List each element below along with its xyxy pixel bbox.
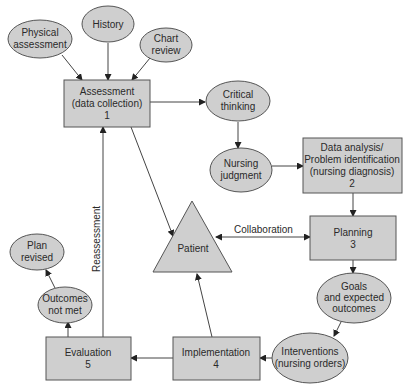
svg-text:Data analysis/: Data analysis/ xyxy=(321,142,384,153)
edge-physical-to-assessment xyxy=(62,55,82,80)
edge-goals-to-interventions xyxy=(334,322,341,336)
svg-text:Assessment: Assessment xyxy=(80,86,135,97)
svg-text:1: 1 xyxy=(104,110,110,121)
svg-text:not met: not met xyxy=(48,305,82,316)
node-history: History xyxy=(82,6,134,42)
node-interventions: Interventions (nursing orders) xyxy=(272,333,348,383)
reassessment-label: Reassessment xyxy=(91,206,102,272)
node-implementation: Implementation 4 xyxy=(173,337,260,380)
svg-text:Planning: Planning xyxy=(334,227,373,238)
edge-chart-review-to-assessment xyxy=(132,58,150,80)
node-goals-expected-outcomes: Goals and expected outcomes xyxy=(317,273,391,323)
nursing-process-diagram: Collaboration Reassessment Physical asse… xyxy=(0,0,405,387)
svg-text:assessment: assessment xyxy=(13,39,67,50)
svg-text:(nursing orders): (nursing orders) xyxy=(275,358,346,369)
svg-text:Physical: Physical xyxy=(21,27,58,38)
svg-text:Chart: Chart xyxy=(154,33,179,44)
svg-text:Evaluation: Evaluation xyxy=(65,347,112,358)
svg-text:Outcomes: Outcomes xyxy=(42,293,88,304)
svg-text:3: 3 xyxy=(350,239,356,250)
node-plan-revised: Plan revised xyxy=(10,234,64,270)
svg-text:History: History xyxy=(92,19,123,30)
svg-text:5: 5 xyxy=(85,359,91,370)
node-assessment: Assessment (data collection) 1 xyxy=(64,80,150,127)
svg-text:Nursing: Nursing xyxy=(224,158,258,169)
svg-text:Critical: Critical xyxy=(223,89,254,100)
node-chart-review: Chart review xyxy=(140,28,192,62)
node-outcomes-not-met: Outcomes not met xyxy=(38,287,92,323)
svg-text:and expected: and expected xyxy=(324,292,384,303)
svg-text:Plan: Plan xyxy=(27,240,47,251)
svg-text:outcomes: outcomes xyxy=(332,303,375,314)
svg-text:review: review xyxy=(152,45,182,56)
svg-text:4: 4 xyxy=(213,359,219,370)
node-critical-thinking: Critical thinking xyxy=(206,81,270,121)
svg-text:(data collection): (data collection) xyxy=(72,98,143,109)
svg-text:judgment: judgment xyxy=(219,170,261,181)
svg-text:Interventions: Interventions xyxy=(281,346,338,357)
edge-implementation-to-patient xyxy=(197,274,212,337)
svg-text:Patient: Patient xyxy=(177,243,208,254)
node-data-analysis: Data analysis/ Problem identification (n… xyxy=(303,138,402,193)
node-evaluation: Evaluation 5 xyxy=(46,337,131,380)
svg-text:Implementation: Implementation xyxy=(182,347,250,358)
svg-text:revised: revised xyxy=(21,252,53,263)
svg-text:Goals: Goals xyxy=(341,281,367,292)
collaboration-label: Collaboration xyxy=(234,224,293,235)
svg-text:(nursing diagnosis): (nursing diagnosis) xyxy=(310,166,395,177)
node-physical-assessment: Physical assessment xyxy=(8,20,72,58)
svg-text:thinking: thinking xyxy=(221,101,255,112)
node-nursing-judgment: Nursing judgment xyxy=(210,148,272,192)
edge-assessment-to-patient xyxy=(131,127,173,236)
svg-text:2: 2 xyxy=(349,178,355,189)
node-planning: Planning 3 xyxy=(310,216,396,260)
svg-text:Problem identification: Problem identification xyxy=(304,154,400,165)
edge-outcomes-to-plan-revised xyxy=(46,270,55,288)
